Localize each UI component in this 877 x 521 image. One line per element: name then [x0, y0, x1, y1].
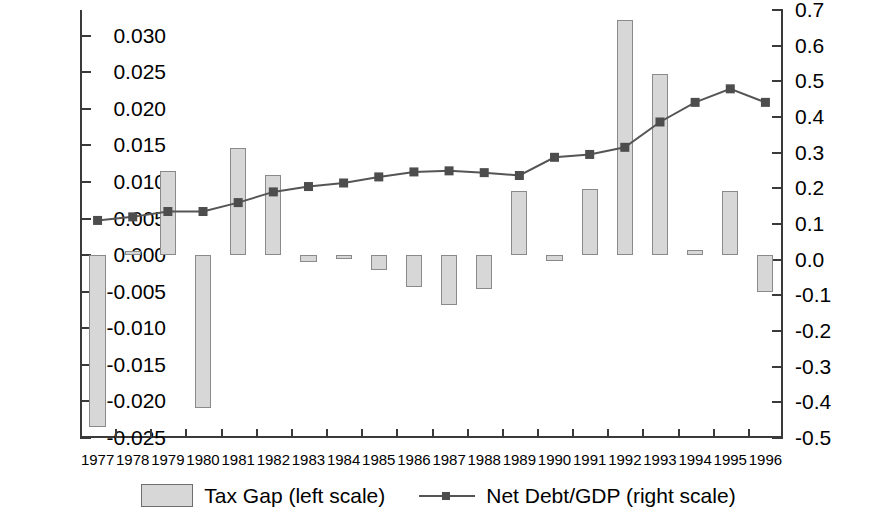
x-axis-tick-label: 1978 [115, 452, 150, 467]
line-data-point-marker [691, 98, 700, 107]
right-axis-tick-label: 0.3 [795, 142, 824, 163]
x-axis-tick-label: 1980 [185, 452, 220, 467]
line-data-point-marker [269, 187, 278, 196]
x-axis-tick-label: 1987 [432, 452, 467, 467]
x-axis-tick-label: 1981 [221, 452, 256, 467]
line-data-point-marker [234, 198, 243, 207]
x-axis-tick-label: 1991 [572, 452, 607, 467]
legend-item-tax-gap: Tax Gap (left scale) [141, 484, 385, 507]
right-axis-tick-label: 0.0 [795, 249, 824, 270]
x-axis-tick-label: 1979 [150, 452, 185, 467]
x-axis-tick-label: 1995 [713, 452, 748, 467]
right-axis-tick-label: -0.4 [795, 391, 831, 412]
line-data-point-marker [163, 207, 172, 216]
line-data-point-marker [761, 98, 770, 107]
right-axis-tick-label: -0.2 [795, 320, 831, 341]
legend-line-marker-icon [419, 489, 475, 503]
x-axis-tick-label: 1984 [326, 452, 361, 467]
x-axis-tick-label: 1977 [80, 452, 115, 467]
net-debt-gdp-line-path [98, 89, 766, 221]
line-data-point-marker [480, 168, 489, 177]
x-axis-tick-label: 1993 [642, 452, 677, 467]
line-data-point-marker [515, 171, 524, 180]
line-data-point-marker [445, 166, 454, 175]
line-data-point-marker [304, 182, 313, 191]
line-data-point-marker [409, 167, 418, 176]
line-data-point-marker [620, 143, 629, 152]
line-data-point-marker [93, 216, 102, 225]
legend-swatch-icon [141, 484, 193, 507]
x-axis-tick-label: 1994 [678, 452, 713, 467]
chart-legend: Tax Gap (left scale) Net Debt/GDP (right… [0, 484, 877, 507]
right-axis-tick-label: 0.6 [795, 35, 824, 56]
line-series-net-debt-gdp [80, 10, 783, 438]
line-data-point-marker [585, 150, 594, 159]
x-axis-tick-label: 1992 [607, 452, 642, 467]
x-axis-tick-label: 1989 [502, 452, 537, 467]
line-data-point-marker [550, 153, 559, 162]
line-data-point-marker [199, 207, 208, 216]
right-axis-tick-label: -0.5 [795, 427, 831, 448]
right-axis-tick-label: 0.5 [795, 70, 824, 91]
right-axis-tick-label: 0.2 [795, 177, 824, 198]
line-data-point-marker [726, 84, 735, 93]
x-axis-tick-label: 1990 [537, 452, 572, 467]
chart-figure: 0.0300.0250.0200.0150.0100.0050.000-0.00… [0, 0, 877, 521]
right-axis-tick-label: -0.3 [795, 356, 831, 377]
right-axis-tick-label: 0.4 [795, 106, 824, 127]
right-axis-tick-label: -0.1 [795, 284, 831, 305]
legend-label-tax-gap: Tax Gap (left scale) [204, 485, 385, 506]
line-data-point-marker [339, 178, 348, 187]
line-data-point-marker [374, 172, 383, 181]
x-axis-tick-label: 1996 [748, 452, 783, 467]
line-data-point-marker [128, 212, 137, 221]
legend-item-net-debt-gdp: Net Debt/GDP (right scale) [419, 485, 735, 506]
right-axis-tick-label: 0.7 [795, 0, 824, 20]
x-axis-tick-label: 1988 [467, 452, 502, 467]
x-axis-tick-label: 1983 [291, 452, 326, 467]
right-axis-tick-label: 0.1 [795, 213, 824, 234]
x-axis-tick-label: 1985 [361, 452, 396, 467]
x-axis-tick-label: 1982 [256, 452, 291, 467]
legend-label-net-debt-gdp: Net Debt/GDP (right scale) [486, 485, 735, 506]
line-data-point-marker [655, 117, 664, 126]
x-axis-tick-label: 1986 [396, 452, 431, 467]
